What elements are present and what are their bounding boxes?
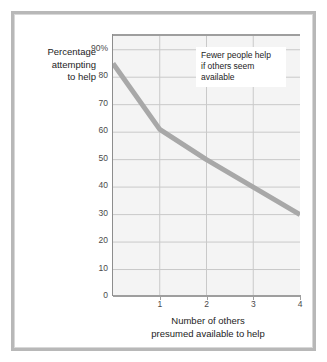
- chart-annotation-line-2: if others seem: [201, 61, 282, 72]
- x-tick-label-1: 1: [149, 300, 171, 309]
- y-axis-line: [112, 34, 113, 296]
- x-axis-title: Number of others presumed available to h…: [113, 315, 303, 340]
- x-axis-title-line-1: Number of others: [113, 315, 303, 328]
- chart-annotation-line-3: available: [201, 72, 282, 83]
- chart-annotation: Fewer people help if others seem availab…: [196, 47, 286, 87]
- y-axis-tick-labels: 0102030405060708090%: [75, 0, 108, 362]
- y-tick-label-0: 0: [75, 291, 108, 300]
- y-tick-label-90: 90%: [75, 44, 108, 53]
- y-tick-label-40: 40: [75, 181, 108, 190]
- x-tick-label-3: 3: [242, 300, 264, 309]
- x-axis-title-line-2: presumed available to help: [113, 328, 303, 341]
- x-tick-label-4: 4: [289, 300, 311, 309]
- y-tick-label-80: 80: [75, 71, 108, 80]
- chart-figure: Percentage attempting to help 0102030405…: [0, 0, 327, 362]
- y-tick-label-50: 50: [75, 154, 108, 163]
- x-tick-mark-2: [207, 296, 208, 300]
- chart-annotation-line-1: Fewer people help: [201, 50, 282, 61]
- y-tick-label-20: 20: [75, 236, 108, 245]
- y-tick-label-10: 10: [75, 264, 108, 273]
- x-tick-mark-3: [253, 296, 254, 300]
- x-tick-mark-1: [160, 296, 161, 300]
- y-tick-label-70: 70: [75, 99, 108, 108]
- y-tick-label-30: 30: [75, 209, 108, 218]
- x-tick-label-2: 2: [196, 300, 218, 309]
- x-tick-mark-4: [300, 296, 301, 300]
- y-tick-label-60: 60: [75, 126, 108, 135]
